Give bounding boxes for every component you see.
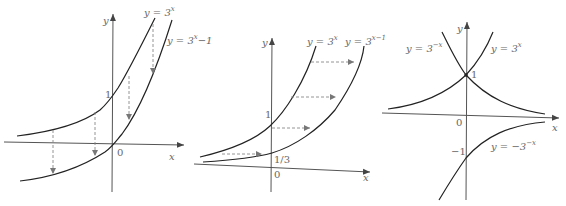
origin-label: 0 [456,117,462,128]
function-graphs-figure: y x 0 1 y = 3x y = 3x−1 y x 0 1 1/3 y = … [0,0,566,206]
tick-label-1: 1 [471,69,477,80]
curve-3-pow-x [17,18,155,136]
graph-reflections: y x 0 1 −1 y = 3−x y = 3x y = −3−x [382,22,559,200]
x-axis-label: x [169,151,175,162]
curve-label-3-pow-x-minus-1: y = 3x−1 [344,34,386,47]
x-axis-label: x [552,122,558,133]
curve-label-3-pow-neg-x: y = 3−x [405,41,443,54]
curve-label-3-pow-x: y = 3x [490,41,522,54]
graph-vertical-shift: y x 0 1 y = 3x y = 3x−1 [4,5,212,192]
curve-label-3-pow-x-minus-1: y = 3x−1 [166,33,212,46]
y-axis [112,14,113,192]
x-axis-label: x [363,172,369,183]
curve-label-neg-3-pow-neg-x: y = −3−x [490,139,536,152]
y-axis-label: y [102,15,109,26]
curve-neg-3-pow-neg-x [439,122,545,200]
y-axis-label: y [261,37,268,48]
graph-horizontal-shift: y x 0 1 1/3 y = 3x y = 3x−1 [194,34,386,192]
tick-label-neg-1: −1 [451,146,466,157]
curve-3-pow-x-minus-1 [20,20,172,181]
x-axis [382,113,559,118]
x-axis [4,142,184,145]
y-axis-label: y [456,23,463,34]
tick-label-1: 1 [105,89,111,100]
intersection-point [464,73,468,77]
curve-label-3-pow-x: y = 3x [306,34,338,47]
curve-label-3-pow-x: y = 3x [143,5,175,18]
tick-label-one-third: 1/3 [274,154,290,165]
curve-3-pow-x-minus-1-shifted [203,46,364,162]
origin-label: 0 [117,147,123,158]
y-axis [466,22,467,200]
tick-label-1: 1 [265,109,271,120]
x-axis [194,164,370,172]
origin-label: 0 [274,169,280,180]
